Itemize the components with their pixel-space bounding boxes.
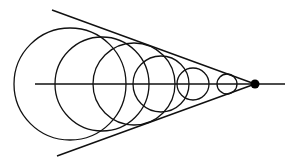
upper-tangent-line [52,10,255,84]
inscribed-circles-diagram [0,0,297,165]
tangent-lines [52,10,255,156]
lower-tangent-line [57,84,255,156]
apex-point [251,80,260,89]
